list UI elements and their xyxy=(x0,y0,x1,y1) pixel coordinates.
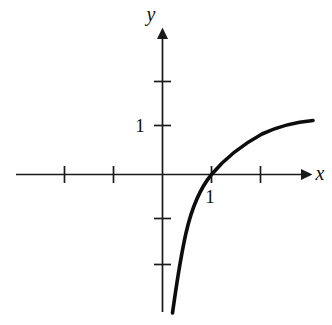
y-tick-label-one: 1 xyxy=(135,115,145,136)
x-tick-label-one: 1 xyxy=(205,186,215,207)
y-axis-label: y xyxy=(145,3,156,26)
label-layer: y x 1 1 xyxy=(0,0,332,325)
x-axis-label: x xyxy=(315,162,325,184)
logarithm-graph-figure: y x 1 1 xyxy=(0,0,332,325)
